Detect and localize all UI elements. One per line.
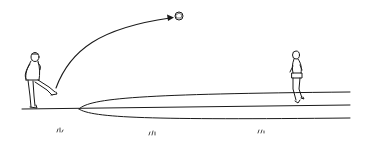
arrow-head-icon [167,15,174,22]
arc-with-arrow [56,15,174,89]
grass-tuft [258,130,264,133]
player-kicking [25,53,57,109]
ball [175,12,183,20]
grass-tuft [57,128,63,132]
illustration [0,0,367,146]
ground-lines [22,92,350,119]
player-running [290,51,304,103]
grass-tuft [149,131,155,135]
